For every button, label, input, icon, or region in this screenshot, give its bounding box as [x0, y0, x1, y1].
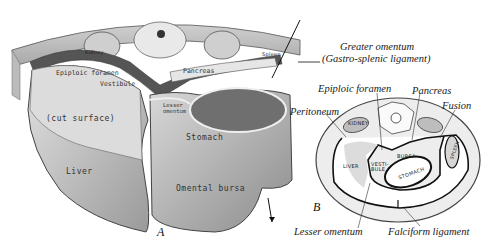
label-lesser-omentum-a: Lesser omentum [163, 103, 193, 114]
label-lesser-omentum-b: Lesser omentum [294, 227, 363, 238]
label-stomach-a: Stomach [186, 134, 223, 142]
label-spleen-a: Spleen [262, 52, 281, 57]
label-cut-surface: (cut surface) [46, 115, 115, 123]
label-epiploic-foramen-a: Epiploic foramen [56, 70, 119, 77]
label-fusion: Fusion [442, 101, 471, 112]
label-peritoneum: Peritoneum [290, 107, 339, 118]
label-vestibule-b: VESTI-BULE [371, 162, 389, 172]
label-kidney-b: KIDNEY [348, 121, 368, 126]
label-epiploic-foramen-b: Epiploic foramen [318, 84, 391, 95]
panel-b-letter: B [313, 201, 320, 213]
label-bursa-b: BURSA [397, 154, 416, 159]
label-vestibule-a: Vestibule [100, 81, 135, 88]
label-falciform-ligament: Falciform ligament [388, 227, 469, 238]
label-liver-b: LIVER [343, 164, 359, 169]
panel-b-illustration [0, 0, 483, 247]
anatomy-figure: Epiploic foramen Vestibule Pancreas Kidn… [0, 0, 483, 247]
label-liver-a: Liver [66, 168, 93, 176]
label-omental-bursa: Omental bursa [176, 185, 245, 193]
label-pancreas-b: Pancreas [412, 86, 451, 97]
label-gastro-splenic-ligament: (Gastro-splenic ligament) [322, 54, 430, 65]
label-greater-omentum: Greater omentum [340, 42, 414, 53]
label-kidney-a: Kidney [85, 50, 104, 55]
label-pancreas-a: Pancreas [183, 68, 214, 75]
panel-a-letter: A [157, 226, 164, 238]
